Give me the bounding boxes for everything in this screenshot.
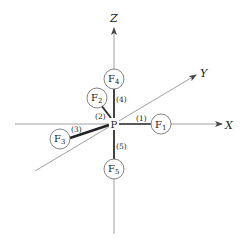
point-p-label: P	[111, 119, 118, 130]
node-f3: F3	[50, 129, 70, 149]
x-axis-label: X	[224, 119, 234, 132]
node-f1: F1	[151, 114, 171, 134]
z-axis-label: Z	[109, 12, 118, 25]
y-axis-label: Y	[200, 67, 209, 80]
edge-label-5: (5)	[116, 142, 127, 151]
edge-label-3: (3)	[71, 125, 82, 134]
coordinate-diagram: Z Y X P F1 F2 F3 F4	[0, 0, 248, 243]
node-f4: F4	[104, 69, 124, 89]
diagram-canvas: Z Y X P F1 F2 F3 F4	[0, 0, 248, 243]
edge-label-4: (4)	[116, 95, 127, 104]
edge-label-1: (1)	[136, 114, 147, 123]
node-f2: F2	[87, 88, 107, 108]
edge-label-2: (2)	[95, 112, 106, 121]
node-f5: F5	[104, 159, 124, 179]
